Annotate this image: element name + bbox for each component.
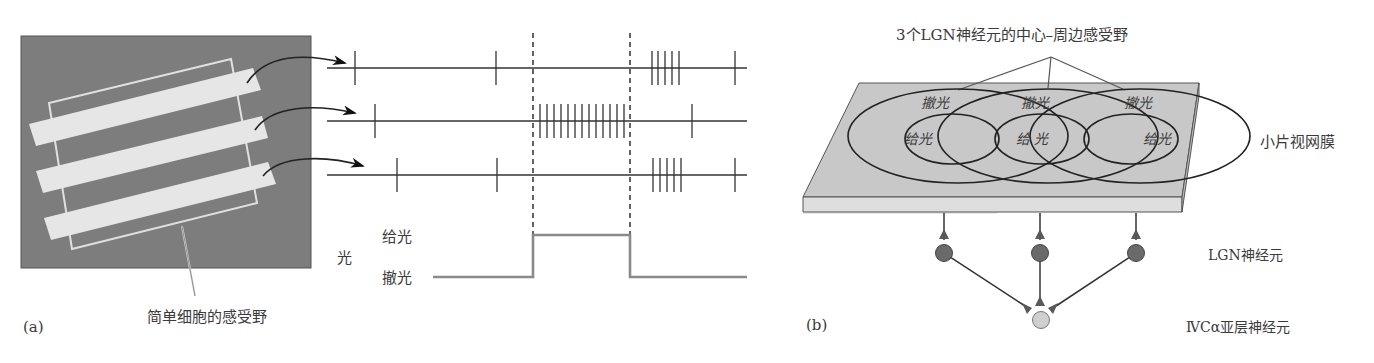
center-label-2: 给 光 [1016, 128, 1048, 148]
lgn-label: LGN神经元 [1208, 244, 1283, 264]
neuron-circuit [936, 213, 1145, 329]
center-label-3: 给光 [1143, 128, 1171, 148]
stimulus-trace [433, 235, 747, 277]
surround-label-1: 撤光 [921, 92, 949, 112]
surround-label-3: 撤光 [1124, 92, 1152, 112]
lgn-neuron-2 [1032, 245, 1049, 262]
panel-b-label: (b) [806, 316, 827, 334]
panel-b-title: 3个LGN神经元的中心–周边感受野 [896, 23, 1128, 44]
panel-a-label: (a) [23, 318, 44, 336]
receptive-field-caption: 简单细胞的感受野 [147, 305, 267, 326]
cortex-neuron [1033, 312, 1050, 329]
stimulus-axis-label: 光 [337, 246, 352, 267]
retina-label: 小片视网膜 [1260, 130, 1335, 151]
center-label-1: 给光 [904, 128, 932, 148]
lgn-neuron-1 [936, 245, 953, 262]
surround-label-2: 撤光 [1021, 92, 1049, 112]
stimulus-off-label: 撤光 [382, 266, 412, 287]
stimulus-panel [21, 36, 311, 296]
stimulus-on-label: 给光 [382, 225, 412, 246]
lgn-neuron-3 [1128, 245, 1145, 262]
cortex-label: ⅣCα亚层神经元 [1186, 316, 1290, 336]
